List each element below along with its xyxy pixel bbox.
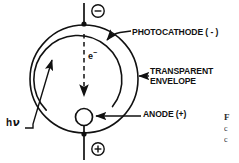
photon-leader-line: [25, 60, 52, 128]
photon-label: hν: [6, 117, 20, 129]
caption-fragment-title: F: [224, 112, 239, 123]
anode-circle: [76, 109, 93, 126]
photon-label-h: h: [6, 117, 12, 128]
photon-label-nu: ν: [13, 116, 20, 128]
photocathode-label: PHOTOCATHODE ( - ): [132, 28, 218, 37]
caption-fragment: F c c: [224, 112, 239, 154]
photocathode-arc: [34, 36, 122, 111]
phototube-figure: PHOTOCATHODE ( - ) TRANSPARENTENVELOPE A…: [0, 0, 239, 163]
transparent-envelope-label-line1: TRANSPARENT: [150, 66, 213, 76]
caption-fragment-line2: c: [224, 134, 239, 145]
transparent-envelope-label: TRANSPARENTENVELOPE: [150, 67, 213, 86]
negative-terminal-symbol: [92, 5, 104, 17]
caption-fragment-line1: c: [224, 123, 239, 134]
electron-label: e−: [88, 52, 97, 61]
positive-terminal-symbol: [92, 143, 104, 155]
electron-label-charge: −: [93, 49, 97, 56]
transparent-envelope-label-line2: ENVELOPE: [150, 77, 213, 86]
anode-label: ANODE (+): [143, 110, 186, 119]
